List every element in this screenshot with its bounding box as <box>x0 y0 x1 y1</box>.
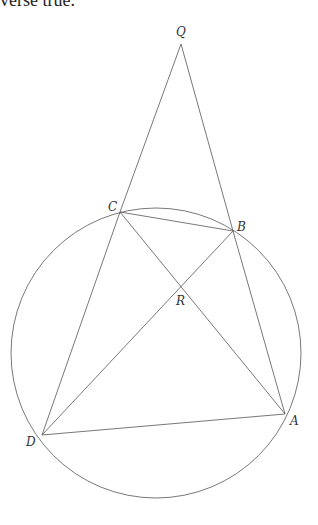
segment-QB <box>181 44 233 231</box>
label-B: B <box>236 220 246 234</box>
segment-QC <box>120 44 181 212</box>
circumcircle <box>11 208 301 498</box>
segment-BA <box>233 231 285 414</box>
label-Q: Q <box>176 25 186 39</box>
segment-CB <box>120 212 233 231</box>
segment-CA <box>120 212 285 414</box>
segment-DB <box>42 231 233 435</box>
label-D: D <box>25 435 36 449</box>
segment-CD <box>42 212 120 435</box>
segment-DA <box>42 414 285 435</box>
label-R: R <box>175 294 185 308</box>
geometry-figure: Q C B R D A <box>0 0 318 525</box>
label-A: A <box>289 414 299 428</box>
label-C: C <box>108 200 117 214</box>
